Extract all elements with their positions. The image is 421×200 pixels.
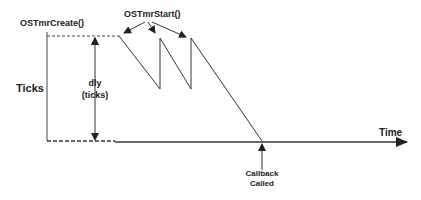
start-label: OSTmrStart() [124, 9, 181, 19]
time-label: Time [379, 127, 403, 138]
dly-arrow-head-bottom [91, 133, 99, 141]
timer-diagram: OSTmrCreate() OSTmrStart() Ticks dly (ti… [0, 0, 421, 200]
create-label: OSTmrCreate() [20, 18, 84, 28]
callback-label: Callback [246, 169, 279, 178]
start-arrow-2 [148, 22, 155, 33]
dly-ticks-label: (ticks) [82, 90, 109, 100]
ticks-label: Ticks [16, 82, 44, 94]
countdown-sawtooth [119, 36, 262, 141]
dly-arrow-head-top [91, 37, 99, 45]
called-label: Called [250, 179, 274, 188]
start-arrow-1 [124, 22, 145, 33]
start-arrow-3 [152, 22, 186, 37]
dly-label: dly [88, 78, 101, 88]
